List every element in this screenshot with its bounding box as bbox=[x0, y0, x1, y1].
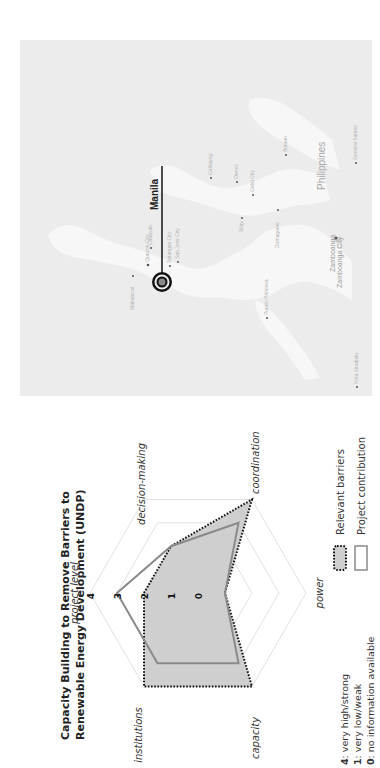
city-dot-icon bbox=[236, 181, 238, 183]
scale-legend-4: 4: very high/strong bbox=[339, 674, 350, 765]
svg-text:Puerto Princesa: Puerto Princesa bbox=[263, 279, 269, 315]
map-background bbox=[20, 40, 372, 396]
capital-label: Manila bbox=[149, 178, 160, 210]
city-general-santos[interactable]: General Santos bbox=[352, 125, 358, 164]
series-legend: Relevant barriers Project contribution bbox=[334, 437, 367, 570]
country-label: Philippines bbox=[316, 142, 327, 190]
axis-label-power: power bbox=[314, 577, 325, 610]
tick-label-0: 0 bbox=[194, 593, 204, 599]
scale-legend-0: 0: no information available bbox=[365, 636, 376, 765]
city-batangas-city[interactable]: Batangas City bbox=[166, 231, 172, 267]
legend-label-project-contribution: Project contribution bbox=[356, 437, 367, 535]
svg-text:Butuan: Butuan bbox=[282, 136, 288, 152]
city-san-jose-city[interactable]: San Jose City bbox=[174, 228, 180, 263]
legend-item-project-contribution[interactable]: Project contribution bbox=[355, 437, 367, 570]
city-dot-icon bbox=[177, 261, 179, 263]
city-dot-icon bbox=[252, 194, 254, 196]
city-dot-icon bbox=[132, 275, 134, 277]
tick-label-3: 3 bbox=[113, 593, 123, 599]
legend-item-relevant-barriers[interactable]: Relevant barriers bbox=[334, 449, 346, 570]
svg-text:Mabalacat: Mabalacat bbox=[129, 286, 135, 310]
svg-text:Dumaguete: Dumaguete bbox=[274, 222, 280, 248]
axis-label-coordination: coordination bbox=[250, 431, 261, 494]
svg-text:Ormoc: Ormoc bbox=[233, 164, 239, 180]
city-dot-icon bbox=[356, 386, 358, 388]
city-dot-icon bbox=[169, 265, 171, 267]
svg-text:Kota Kinabalu: Kota Kinabalu bbox=[353, 353, 359, 384]
axis-label-project-level: project level bbox=[69, 562, 80, 625]
map-panel: Manila Philippines Cauayan San Jose City… bbox=[20, 40, 372, 396]
city-dot-icon bbox=[266, 317, 268, 319]
city-dot-icon bbox=[355, 162, 357, 164]
city-dot-icon bbox=[277, 209, 279, 211]
city-dot-icon bbox=[285, 154, 287, 156]
svg-text:Cebu City: Cebu City bbox=[249, 170, 255, 192]
city-quezon-city[interactable]: Quezon City bbox=[144, 234, 150, 266]
scale-legend-1: 1: very low/weak bbox=[352, 683, 363, 765]
city-dot-icon bbox=[210, 177, 212, 179]
legend-swatch-dotted-icon bbox=[334, 546, 346, 570]
city-dot-icon bbox=[147, 264, 150, 267]
scale-legend: 4: very high/strong 1: very low/weak 0: … bbox=[339, 636, 376, 765]
axis-label-decision-making: decision-making bbox=[136, 443, 147, 525]
tick-label-4: 4 bbox=[86, 593, 96, 599]
radar-chart: Capacity Building to Remove Barriers to … bbox=[59, 431, 376, 765]
axis-label-institutions: institutions bbox=[133, 707, 144, 763]
city-dot-icon bbox=[150, 247, 152, 249]
svg-text:Zamboanga City: Zamboanga City bbox=[336, 236, 344, 288]
figure-canvas: Manila Philippines Cauayan San Jose City… bbox=[0, 0, 380, 768]
legend-swatch-outline-icon bbox=[355, 546, 367, 570]
city-kota-kinabalu[interactable]: Kota Kinabalu bbox=[353, 353, 359, 388]
target-center-dot bbox=[159, 279, 166, 286]
tick-label-1: 1 bbox=[167, 593, 177, 599]
tick-label-2: 2 bbox=[140, 593, 150, 599]
svg-text:General Santos: General Santos bbox=[352, 125, 358, 160]
svg-text:Calbayog: Calbayog bbox=[207, 154, 213, 175]
svg-text:San Jose City: San Jose City bbox=[174, 228, 180, 259]
city-puerto-princesa[interactable]: Puerto Princesa bbox=[263, 279, 269, 319]
city-calbayog[interactable]: Calbayog bbox=[207, 154, 213, 179]
svg-text:Quezon City: Quezon City bbox=[144, 234, 150, 262]
svg-text:Silay: Silay bbox=[238, 221, 244, 232]
legend-label-relevant-barriers: Relevant barriers bbox=[335, 449, 346, 535]
city-cebu-city[interactable]: Cebu City bbox=[249, 170, 255, 196]
axis-label-capacity: capacity bbox=[250, 716, 261, 759]
svg-text:Batangas City: Batangas City bbox=[166, 231, 172, 263]
city-dot-icon bbox=[241, 217, 243, 219]
